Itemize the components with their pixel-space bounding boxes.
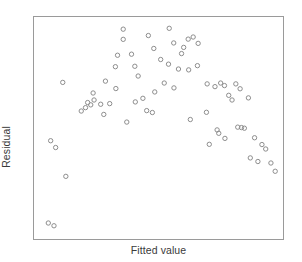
data-point: [207, 142, 211, 146]
data-point: [121, 27, 125, 31]
data-point: [129, 52, 133, 56]
data-point: [222, 83, 226, 87]
data-point: [113, 65, 117, 69]
data-point: [264, 147, 268, 151]
data-point: [133, 64, 137, 68]
data-point: [146, 33, 150, 37]
data-point: [186, 37, 190, 41]
data-point: [91, 91, 95, 95]
data-point: [133, 100, 137, 104]
data-point: [256, 159, 260, 163]
data-point: [125, 120, 129, 124]
data-point: [176, 67, 180, 71]
data-point: [172, 41, 176, 45]
data-point: [89, 103, 93, 107]
data-point: [103, 79, 107, 83]
data-point: [46, 221, 50, 225]
data-point: [64, 174, 68, 178]
data-point: [273, 169, 277, 173]
data-point: [252, 136, 256, 140]
data-point: [260, 142, 264, 146]
data-point: [213, 84, 217, 88]
data-point: [114, 86, 118, 90]
data-point: [186, 68, 190, 72]
y-axis-label: Residual: [0, 0, 14, 262]
data-point: [79, 109, 83, 113]
data-point: [108, 101, 112, 105]
data-point: [191, 35, 195, 39]
data-point: [234, 82, 238, 86]
data-point: [99, 102, 103, 106]
data-point: [181, 45, 185, 49]
scatter-plot-figure: Residual Fitted value: [0, 0, 302, 262]
data-point: [152, 46, 156, 50]
data-point: [246, 96, 250, 100]
data-point: [242, 126, 246, 130]
data-point: [188, 117, 192, 121]
y-axis-label-text: Residual: [0, 126, 12, 168]
data-point: [61, 80, 65, 84]
data-point: [141, 96, 145, 100]
data-point: [238, 87, 242, 91]
data-point: [145, 108, 149, 112]
data-point: [205, 82, 209, 86]
data-point: [230, 98, 234, 102]
data-point: [83, 105, 87, 109]
data-point: [204, 110, 208, 114]
data-point: [150, 110, 154, 114]
data-point: [153, 90, 157, 94]
data-point: [179, 51, 183, 55]
data-point: [196, 41, 200, 45]
data-point: [115, 53, 119, 57]
data-point: [162, 81, 166, 85]
data-point: [227, 93, 231, 97]
data-point: [195, 63, 199, 67]
data-point: [48, 139, 52, 143]
data-point: [52, 224, 56, 228]
data-point: [159, 57, 163, 61]
data-points-layer: [34, 17, 283, 239]
data-point: [167, 26, 171, 30]
data-point: [102, 112, 106, 116]
data-point: [121, 37, 125, 41]
data-point: [92, 98, 96, 102]
data-point: [53, 145, 57, 149]
x-axis-label: Fitted value: [33, 244, 284, 256]
data-point: [166, 62, 170, 66]
data-point: [172, 86, 176, 90]
plot-frame: [33, 16, 284, 240]
data-point: [223, 136, 227, 140]
data-point: [248, 156, 252, 160]
data-point: [269, 161, 273, 165]
data-point: [136, 74, 140, 78]
